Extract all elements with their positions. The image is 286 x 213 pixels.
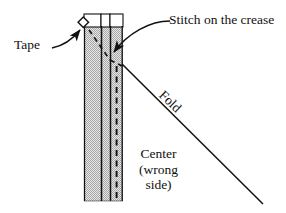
label-center-wrong-side: Center (wrong side) [139,146,178,193]
label-center-line-1: Center [139,146,178,162]
label-center-line-2: (wrong [139,162,178,178]
label-tape: Tape [14,38,40,53]
sewing-diagram-figure: Tape Stitch on the crease Fold Center (w… [0,0,286,213]
tape-arrow-icon [52,30,80,48]
label-center-line-3: side) [139,177,178,193]
label-stitch-on-the-crease: Stitch on the crease [169,13,274,28]
top-tabs-group [84,14,123,27]
